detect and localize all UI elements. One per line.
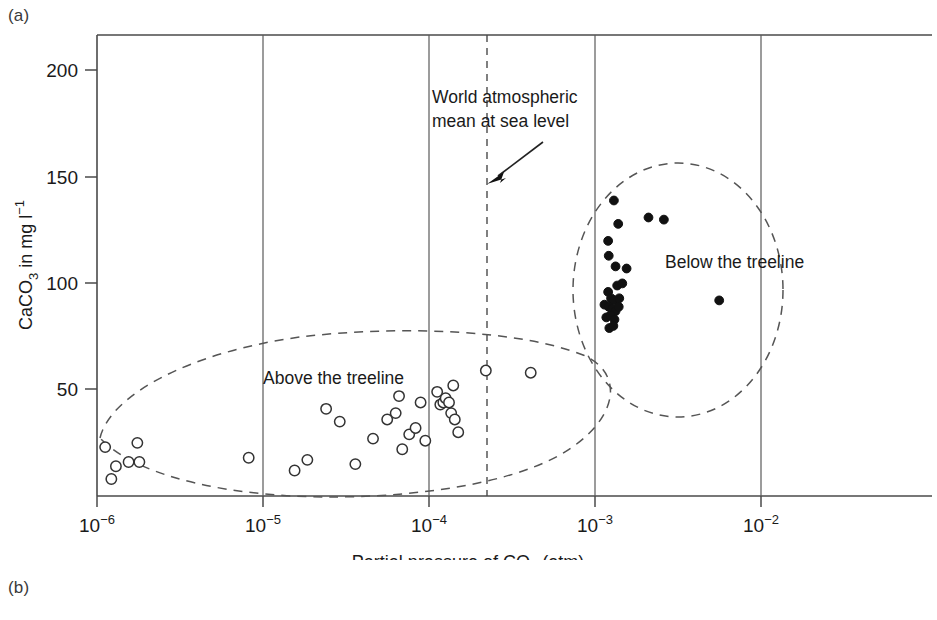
above-treeline-label: Above the treeline [263,368,404,388]
world-mean-arrow-shaft [498,142,543,176]
world-mean-arrow-head [487,172,506,184]
x-axis-ticks [97,496,761,507]
y-axis-tick-labels: 200 150 100 50 [46,60,78,400]
data-point [611,262,620,271]
data-point [604,251,613,260]
scatter-plot: 200 150 100 50 10−6 10−5 10−4 10−3 10−2 … [0,0,937,560]
x-tick-label-1e-3: 10−3 [577,512,613,536]
data-point [622,264,631,273]
figure-panel-a: (a) 200 150 100 50 [0,0,937,560]
y-tick-label-50: 50 [57,379,78,400]
data-point [100,442,110,452]
data-point [614,302,623,311]
data-point [415,397,425,407]
data-point [106,474,116,484]
data-point [394,391,404,401]
data-point [321,404,331,414]
data-point [604,236,613,245]
data-point [715,296,724,305]
data-point [450,414,460,424]
data-point [123,457,133,467]
data-point [302,455,312,465]
x-tick-label-1e-6: 10−6 [79,512,115,536]
data-point [644,213,653,222]
y-tick-label-200: 200 [46,60,78,81]
world-mean-label-line1: World atmospheric [432,87,578,107]
panel-b-label: (b) [8,578,29,598]
below-treeline-label: Below the treeline [665,252,804,272]
data-point [453,427,463,437]
data-point [609,322,618,331]
data-point [350,459,360,469]
y-tick-label-100: 100 [46,273,78,294]
data-point [481,365,491,375]
data-point [410,423,420,433]
world-mean-annotation: World atmospheric mean at sea level [432,87,578,184]
y-tick-label-150: 150 [46,167,78,188]
data-point [448,380,458,390]
y-axis-ticks [85,70,97,389]
data-point [526,367,536,377]
data-point [420,436,430,446]
data-point [243,453,253,463]
data-point [134,457,144,467]
data-point [615,294,624,303]
data-point [289,465,299,475]
data-point [368,433,378,443]
world-mean-label-line2: mean at sea level [432,111,569,131]
x-tick-label-1e-2: 10−2 [743,512,779,536]
data-point [444,397,454,407]
x-tick-label-1e-4: 10−4 [411,512,447,536]
above-treeline-hull [100,331,610,497]
x-tick-label-1e-5: 10−5 [245,512,281,536]
data-point [659,215,668,224]
data-point [111,461,121,471]
data-point [614,219,623,228]
x-axis-title: Partial pressure of CO2 (atm) [352,552,584,560]
data-point [390,408,400,418]
data-point [610,196,619,205]
data-point [132,438,142,448]
data-point [397,444,407,454]
data-point [618,279,627,288]
x-axis-tick-labels: 10−6 10−5 10−4 10−3 10−2 [79,512,779,536]
y-axis-title: CaCO3 in mg l−1 [12,200,41,330]
data-point [335,416,345,426]
